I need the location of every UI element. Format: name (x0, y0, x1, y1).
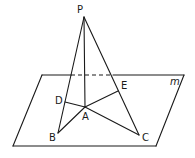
segment-AC (85, 107, 139, 135)
geometry-diagram: P A B C D E m (0, 0, 195, 158)
label-C: C (142, 132, 149, 143)
label-A: A (82, 111, 89, 122)
label-D: D (55, 95, 63, 106)
label-plane-m: m (170, 76, 180, 87)
diagram-svg: P A B C D E m (0, 0, 195, 158)
pyramid-edges (58, 17, 139, 135)
segment-AE (85, 91, 118, 107)
segment-AD (65, 102, 85, 107)
label-P: P (77, 4, 83, 15)
segment-PC (84, 17, 139, 135)
plane-m (13, 75, 184, 146)
segment-PA (84, 17, 85, 107)
label-E: E (121, 80, 127, 91)
plane-left-edge (13, 75, 42, 146)
label-B: B (49, 132, 56, 143)
segment-AB (58, 107, 85, 133)
